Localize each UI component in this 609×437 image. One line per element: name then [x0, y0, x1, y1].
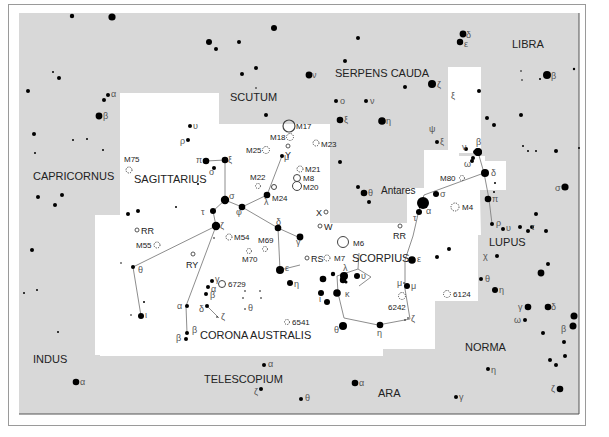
- label-libra: LIBRA: [512, 38, 544, 50]
- label-capricornus: CAPRICORNUS: [33, 170, 114, 182]
- label-m17: M17: [296, 122, 312, 131]
- label-ngc6541: 6541: [292, 318, 310, 327]
- svg-text:π: π: [196, 155, 202, 165]
- label-norma: NORMA: [465, 341, 507, 353]
- svg-text:ω: ω: [464, 159, 471, 169]
- svg-text:α: α: [268, 359, 273, 369]
- svg-text:ξ: ξ: [451, 91, 455, 101]
- svg-text:ο: ο: [209, 167, 214, 177]
- label-m55: M55: [136, 241, 152, 250]
- svg-text:σ: σ: [555, 183, 561, 193]
- svg-text:γ: γ: [518, 302, 523, 312]
- svg-text:ζ: ζ: [437, 80, 441, 90]
- svg-text:β: β: [476, 137, 481, 147]
- svg-text:η: η: [294, 279, 299, 289]
- svg-text:γ: γ: [296, 237, 301, 247]
- svg-text:κ: κ: [345, 289, 350, 299]
- svg-text:ξ: ξ: [440, 137, 444, 147]
- svg-text:ξ: ξ: [344, 115, 348, 125]
- label-m8: M8: [303, 174, 315, 183]
- svg-text:β: β: [561, 324, 566, 334]
- svg-text:η: η: [491, 365, 496, 375]
- svg-text:ψ: ψ: [429, 124, 435, 134]
- svg-text:τ: τ: [531, 222, 535, 232]
- svg-text:τ: τ: [413, 213, 417, 223]
- label-m22: M22: [250, 173, 266, 182]
- svg-text:υ: υ: [506, 223, 511, 233]
- svg-text:ε: ε: [285, 263, 289, 273]
- svg-text:ω: ω: [514, 315, 521, 325]
- label-m25: M25: [246, 146, 262, 155]
- label-scorpius: SCORPIUS: [352, 252, 409, 264]
- svg-text:δ: δ: [199, 304, 204, 314]
- label-lupus: LUPUS: [489, 236, 526, 248]
- svg-text:ζ: ζ: [551, 384, 555, 394]
- svg-text:β: β: [103, 111, 108, 121]
- svg-text:ο: ο: [340, 96, 345, 106]
- svg-text:τ: τ: [201, 207, 205, 217]
- label-m70: M70: [242, 255, 258, 264]
- label-antares: Antares: [381, 185, 415, 196]
- svg-text:ρ: ρ: [496, 218, 501, 228]
- svg-text:θ: θ: [334, 325, 339, 335]
- svg-text:ν: ν: [370, 96, 375, 106]
- svg-text:μ: μ: [411, 281, 416, 291]
- svg-text:ι: ι: [145, 310, 147, 320]
- svg-text:ζ: ζ: [221, 312, 225, 322]
- label-m23: M23: [321, 140, 337, 149]
- svg-text:β: β: [176, 333, 181, 343]
- svg-text:β: β: [210, 290, 215, 300]
- svg-text:λ: λ: [264, 197, 269, 207]
- svg-text:β: β: [192, 325, 197, 335]
- label-m6: M6: [353, 239, 365, 248]
- label-m4: M4: [462, 203, 474, 212]
- svg-text:χ: χ: [483, 251, 488, 261]
- svg-text:ε: ε: [417, 254, 421, 264]
- label-serpens-cauda: SERPENS CAUDA: [335, 67, 430, 79]
- label-var-y: Y: [285, 150, 291, 160]
- svg-text:ι: ι: [319, 294, 321, 304]
- label-telescopium: TELESCOPIUM: [204, 373, 283, 385]
- svg-text:η: η: [377, 328, 382, 338]
- svg-text:α: α: [80, 377, 85, 387]
- svg-text:ν: ν: [312, 70, 317, 80]
- svg-text:δ: δ: [276, 217, 281, 227]
- label-indus: INDUS: [33, 353, 67, 365]
- svg-text:υ: υ: [193, 121, 198, 131]
- label-m21: M21: [305, 165, 321, 174]
- svg-text:α: α: [359, 378, 364, 388]
- svg-text:φ: φ: [236, 207, 242, 217]
- label-m75: M75: [124, 155, 140, 164]
- star-name-labels: Antares: [381, 185, 415, 196]
- svg-text:θ: θ: [485, 274, 490, 284]
- star-chart: αβ δε βζ νον ξη ψξξ θ υρ πξο σφτ ζλ μδγ …: [0, 0, 609, 437]
- label-corona-australis: CORONA AUSTRALIS: [200, 329, 311, 341]
- svg-text:η: η: [499, 285, 504, 295]
- svg-text:β: β: [551, 71, 556, 81]
- svg-text:δ: δ: [551, 302, 556, 312]
- svg-text:ρ: ρ: [180, 136, 185, 146]
- label-scutum: SCUTUM: [230, 91, 277, 103]
- label-ngc6729: 6729: [228, 280, 246, 289]
- svg-text:α: α: [177, 301, 182, 311]
- label-ngc6242: 6242: [388, 303, 406, 312]
- svg-text:γ: γ: [215, 274, 220, 284]
- svg-text:α: α: [426, 206, 431, 216]
- label-sagittarius: SAGITTARIUS: [134, 173, 207, 185]
- svg-text:μ: μ: [397, 278, 402, 288]
- label-m18: M18: [270, 133, 286, 142]
- label-var-rr-sgr: RR: [141, 226, 154, 236]
- svg-text:ξ: ξ: [228, 155, 232, 165]
- label-var-x: X: [316, 208, 322, 218]
- svg-text:ζ: ζ: [254, 387, 258, 397]
- svg-text:θ: θ: [305, 393, 310, 403]
- label-ngc6124: 6124: [453, 290, 471, 299]
- svg-text:ε: ε: [464, 39, 468, 49]
- label-m20: M20: [303, 183, 319, 192]
- svg-text:η: η: [386, 116, 391, 126]
- svg-text:θ: θ: [138, 265, 143, 275]
- svg-text:ζ: ζ: [220, 221, 224, 231]
- svg-text:ν: ν: [462, 142, 467, 152]
- svg-text:δ: δ: [491, 168, 496, 178]
- label-m69: M69: [258, 236, 274, 245]
